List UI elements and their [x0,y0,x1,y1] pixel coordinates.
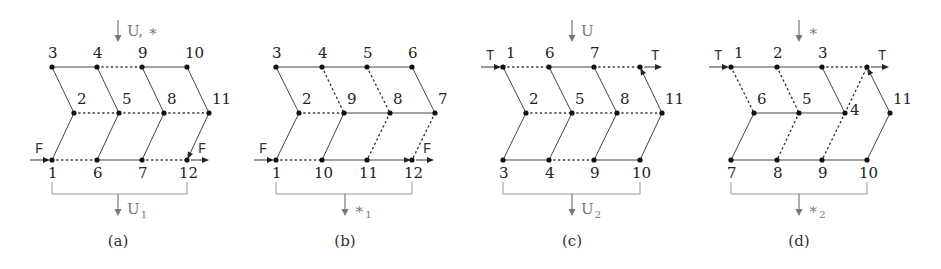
io-out-label: F [198,141,206,157]
node-7 [432,110,437,115]
node-5 [364,64,369,69]
io-in-label: F [259,141,267,157]
node-10 [637,157,642,162]
node-6 [409,64,414,69]
node-label: 2 [773,44,783,62]
node-label: 3 [499,164,509,182]
node-label: 12 [404,164,423,182]
io-out-label: F [423,141,431,157]
panel-caption: (b) [334,232,355,250]
edge-11-10 [640,113,662,160]
node-8 [387,110,392,115]
top-op-arrow-head [569,35,576,42]
panel-a: 349102581116712FFU, ∗U1(a) [30,20,231,250]
node-label: 12 [179,164,198,182]
io-out-arrow-head [202,157,209,163]
node-label: 3 [272,44,282,62]
node-label: 5 [122,90,132,108]
edge-3-2 [52,67,74,113]
io-in-label: F [35,141,43,157]
node-label: 6 [93,164,103,182]
edge-6-5 [549,67,572,113]
edge-2-3 [503,113,526,160]
node-5 [569,110,574,115]
node-label: 10 [632,164,651,182]
node-label: 6 [757,90,767,108]
edge-9-8 [142,67,164,113]
bottom-op-arrow-head [115,209,122,216]
node-1 [728,64,733,69]
node-11 [364,157,369,162]
edge-1-2 [503,67,526,113]
node-11 [659,110,664,115]
node-junction [637,64,642,69]
io-out-arrow-head [882,64,889,70]
bottom-op-subscript: 2 [819,209,825,220]
edge-5-8 [777,113,799,160]
node-8 [774,157,779,162]
node-label: 3 [48,44,58,62]
node-label: 5 [575,90,585,108]
bracket [503,182,640,194]
node-label: 11 [893,90,912,108]
node-9 [139,64,144,69]
node-label: 1 [734,44,744,62]
node-label: 8 [393,90,403,108]
node-label: 2 [77,90,87,108]
node-label: 1 [272,164,282,182]
node-label: 10 [859,164,878,182]
node-7 [728,157,733,162]
edge-5-8 [367,67,390,113]
edge-11-10 [867,113,890,160]
node-1 [500,64,505,69]
node-1 [49,157,54,162]
node-2 [71,110,76,115]
bottom-op-label: U [581,200,594,218]
bottom-op-arrow-head [342,209,349,216]
io-in-arrow-head [43,157,50,163]
node-label: 5 [363,44,373,62]
bottom-op-label: ∗ [808,200,818,218]
node-label: 9 [818,164,828,182]
node-label: 4 [318,44,328,62]
io-in-arrow-head [722,64,729,70]
panel-caption: (c) [562,232,582,250]
node-label: 3 [818,44,828,62]
node-label: 7 [727,164,737,182]
io-out-label: T [878,48,886,64]
node-label: 11 [665,90,684,108]
node-8 [614,110,619,115]
node-2 [296,110,301,115]
edge-5-6 [97,113,119,160]
node-4 [94,64,99,69]
node-label: 7 [138,164,148,182]
node-label: 7 [438,90,448,108]
node-4 [319,64,324,69]
edge-3-2 [276,67,299,113]
edge-4-9 [822,113,845,160]
node-5 [116,110,121,115]
node-12 [409,157,414,162]
node-9 [341,110,346,115]
edge-2-1 [52,113,74,160]
bracket [276,182,412,194]
node-6 [94,157,99,162]
node-label: 1 [506,44,516,62]
node-label: 4 [545,164,555,182]
node-11 [206,110,211,115]
node-7 [591,64,596,69]
node-label: 6 [545,44,555,62]
node-10 [184,64,189,69]
io-in-arrow-head [494,64,501,70]
node-label: 5 [802,90,812,108]
node-label: 8 [620,90,630,108]
node-7 [139,157,144,162]
node-1 [273,157,278,162]
node-3 [273,64,278,69]
bracket [731,182,867,194]
io-in-label: T [486,48,494,64]
edge-10-11 [187,67,209,113]
panel-caption: (a) [108,232,129,250]
top-op-arrow-head [796,35,803,42]
node-label: 10 [314,164,333,182]
